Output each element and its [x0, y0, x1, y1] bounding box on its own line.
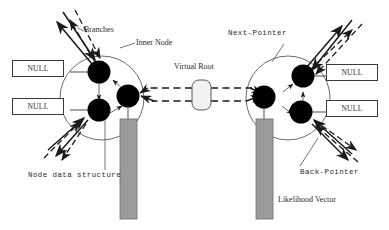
- right-node-left[interactable]: [253, 86, 276, 109]
- left-node-upper[interactable]: [88, 61, 111, 84]
- left-node-lower[interactable]: [88, 99, 111, 122]
- null-box-top-left[interactable]: NULL: [12, 60, 64, 77]
- null-box-bottom-right[interactable]: NULL: [326, 100, 378, 117]
- figure-canvas: NULL NULL NULL NULL Branches Inner Node …: [0, 0, 389, 230]
- branch-right-lower-out-a: [312, 124, 348, 160]
- label-likelihood-vector: Likelihood Vector: [278, 196, 336, 204]
- label-node-data-structure: Node data structure: [28, 172, 121, 180]
- label-back-pointer: Back-Pointer: [300, 169, 359, 177]
- branch-right-lower-in-b: [316, 126, 358, 162]
- leader-inner-node: [120, 43, 135, 48]
- branch-right-upper-out-a: [306, 26, 342, 68]
- label-branches: Branches: [84, 26, 114, 34]
- label-inner-node: Inner Node: [136, 39, 172, 47]
- pointer-right-left-to-upper: [283, 84, 293, 92]
- label-virtual-root: Virtual Root: [174, 63, 214, 71]
- null-box-top-right[interactable]: NULL: [326, 64, 378, 81]
- left-node-right[interactable]: [117, 85, 140, 108]
- virtual-root-arrowhead-left-b: [141, 96, 154, 101]
- null-box-bottom-left[interactable]: NULL: [12, 98, 64, 115]
- likelihood-vector-right: [256, 119, 273, 219]
- virtual-root-shape: [192, 80, 211, 110]
- branch-right-lower-in-a: [314, 120, 352, 154]
- leader-back-pointer: [300, 138, 318, 166]
- right-node-lower[interactable]: [290, 101, 313, 124]
- likelihood-vector-left: [120, 119, 137, 219]
- right-node-upper[interactable]: [292, 65, 315, 88]
- label-next-pointer: Next-Pointer: [228, 30, 287, 38]
- leader-next-pointer: [272, 44, 284, 62]
- pointer-left-lower-to-right: [110, 106, 122, 113]
